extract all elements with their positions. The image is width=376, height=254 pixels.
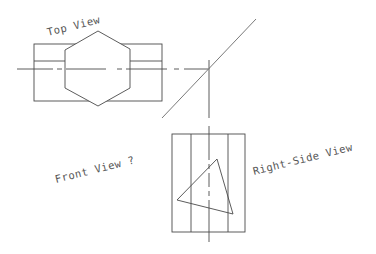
front-view-label: Front View ? xyxy=(54,153,136,184)
right-side-view xyxy=(172,126,245,242)
right-side-view-label: Right-Side View xyxy=(252,140,354,176)
top-view-hexagon xyxy=(65,31,130,106)
right-side-triangle xyxy=(177,159,233,214)
orthographic-drawing: Top View Front View ? Right-Side View xyxy=(0,0,376,254)
top-view xyxy=(17,31,219,106)
right-side-body-rect xyxy=(172,134,245,232)
projection-construction xyxy=(162,19,256,118)
